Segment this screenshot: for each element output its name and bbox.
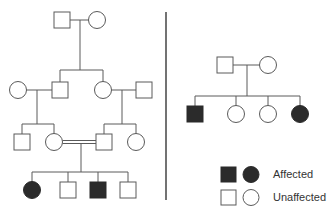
gen3-female-2 (128, 134, 145, 151)
gen4-female-affected (24, 182, 41, 199)
legend-affected-square-icon (221, 167, 236, 182)
gen1-male (54, 12, 70, 28)
legend-unaffected-label: Unaffected (273, 191, 326, 203)
legend-unaffected-square-icon (221, 190, 236, 205)
gen2-male (52, 82, 68, 98)
pedigree-diagram (0, 0, 333, 212)
gen2-male-spouse (136, 82, 152, 98)
gen3-male-1 (14, 134, 30, 150)
right-mother (260, 57, 277, 74)
gen4-male-2 (120, 182, 136, 198)
right-daughter-affected (292, 106, 309, 123)
legend-unaffected-circle-icon (243, 190, 259, 206)
gen1-female (89, 12, 106, 29)
right-daughter-2 (260, 106, 277, 123)
gen4-male-affected (90, 182, 106, 198)
gen3-female-1 (46, 134, 63, 151)
legend-affected-circle-icon (243, 167, 259, 183)
gen2-female-spouse (10, 82, 27, 99)
gen3-male-2 (96, 134, 112, 150)
right-daughter-1 (228, 106, 245, 123)
right-father (217, 57, 233, 73)
gen4-male-1 (60, 182, 76, 198)
gen2-female (95, 82, 112, 99)
right-son-affected (187, 106, 203, 122)
legend-affected-label: Affected (273, 168, 313, 180)
